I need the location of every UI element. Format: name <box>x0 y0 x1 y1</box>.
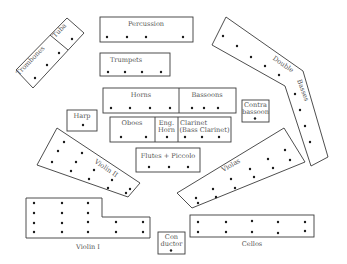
tuba-label: Tuba <box>51 22 68 40</box>
section-violin-2: Violin II <box>37 128 140 197</box>
contrabassoon-label-line2: bassoon <box>242 108 270 116</box>
section-double-basses: Double Basses <box>212 17 328 166</box>
section-violas: Violas <box>177 128 305 208</box>
orchestra-seating-diagram: Percussion Trumpets Trombones Tuba Horns… <box>0 0 347 264</box>
conductor-label-line2: ductor <box>161 240 184 248</box>
clarinet-label-line2: (Bass Clarinet) <box>180 126 230 134</box>
section-contrabassoon: Contra bassoon <box>242 100 270 122</box>
horns-label: Horns <box>131 91 152 99</box>
section-trumpets: Trumpets <box>100 53 170 76</box>
trombones-label: Trombones <box>15 44 47 77</box>
section-harp: Harp <box>67 110 97 131</box>
percussion-label: Percussion <box>128 20 165 28</box>
violin-1-label: Violin I <box>75 243 100 251</box>
section-conductor: Con ductor <box>158 232 185 254</box>
harp-label: Harp <box>73 112 90 120</box>
english-horn-label-line2: Horn <box>158 126 176 134</box>
section-violin-1: Violin I <box>26 198 150 251</box>
cellos-label: Cellos <box>242 240 263 248</box>
section-cellos: Cellos <box>190 215 314 248</box>
section-oboes-enghorn-clarinet: Oboes Eng. Horn Clarinet (Bass Clarinet) <box>110 117 231 142</box>
section-flutes-piccolo: Flutes + Piccolo <box>136 148 200 172</box>
trumpets-label: Trumpets <box>110 56 143 64</box>
flutes-label: Flutes + Piccolo <box>141 152 196 160</box>
oboes-label: Oboes <box>122 119 143 127</box>
bassoons-label: Bassoons <box>191 91 223 99</box>
section-trombones-tuba: Trombones Tuba <box>15 18 84 88</box>
violas-label: Violas <box>219 156 242 174</box>
section-percussion: Percussion <box>100 17 193 42</box>
section-horns-bassoons: Horns Bassoons <box>103 88 236 113</box>
